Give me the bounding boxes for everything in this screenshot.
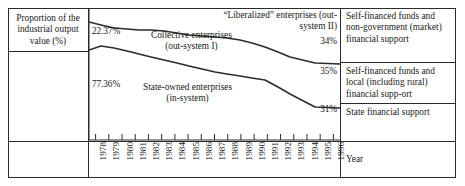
series-label-collective: Collective enterprises (out-system I) bbox=[151, 30, 232, 53]
x-axis-tick-label: 1995 bbox=[324, 142, 333, 160]
funding-box-state: State financial support bbox=[341, 104, 456, 141]
pct-label-soe-start: 77.36% bbox=[92, 79, 120, 89]
x-axis-tick-label: 1987 bbox=[218, 142, 227, 160]
x-axis-tick-label: 1978 bbox=[99, 142, 108, 160]
funding-box-market: Self-financed funds and non-government (… bbox=[341, 8, 456, 63]
figure-container: Proportion of the industrial output valu… bbox=[0, 0, 465, 186]
plot-area: 22.37% 77.36% 34% 35% 31% “Liberalized” … bbox=[89, 8, 340, 141]
x-axis-tick-label: 1988 bbox=[231, 142, 240, 160]
y-axis-label: Proportion of the industrial output valu… bbox=[8, 8, 88, 52]
pct-label-collective-start: 22.37% bbox=[92, 26, 120, 36]
series-label-soe-line2: (in-system) bbox=[143, 93, 232, 104]
x-axis-tick-label: 1989 bbox=[245, 142, 254, 160]
x-axis-tick-label: 1986 bbox=[205, 142, 214, 160]
x-axis-tick-label: 1980 bbox=[126, 142, 135, 160]
series-label-liberalized-line1: “Liberalized” enterprises (out- bbox=[223, 10, 337, 21]
pct-label-soe-end: 31% bbox=[320, 104, 337, 114]
funding-source-column: Self-financed funds and non-government (… bbox=[340, 8, 456, 178]
x-axis-tick-label: 1993 bbox=[297, 142, 306, 160]
x-axis-tick-label: 1981 bbox=[139, 142, 148, 160]
x-axis-title: Year bbox=[341, 142, 456, 178]
left-axis-label-column: Proportion of the industrial output valu… bbox=[8, 8, 89, 178]
series-label-collective-line1: Collective enterprises bbox=[151, 30, 232, 41]
x-axis-tick-label: 1992 bbox=[284, 142, 293, 160]
series-label-liberalized: “Liberalized” enterprises (out- system I… bbox=[223, 10, 337, 33]
pct-label-collective-end: 35% bbox=[320, 66, 337, 76]
series-label-liberalized-line2: system II) bbox=[223, 21, 337, 32]
series-label-soe: State-owned enterprises (in-system) bbox=[143, 82, 232, 105]
x-axis-tick-label: 1991 bbox=[271, 142, 280, 160]
x-axis-tick-label: 1990 bbox=[258, 142, 267, 160]
x-axis-tick-label: 1983 bbox=[165, 142, 174, 160]
funding-box-local: Self-financed funds and local (including… bbox=[341, 63, 456, 104]
x-axis-tick-label: 1985 bbox=[192, 142, 201, 160]
series-label-collective-line2: (out-system I) bbox=[151, 41, 232, 52]
x-axis-tick-label: 1994 bbox=[311, 142, 320, 160]
series-label-soe-line1: State-owned enterprises bbox=[143, 82, 232, 93]
pct-label-liberalized-end: 34% bbox=[320, 36, 337, 46]
x-axis-tick-label: 1984 bbox=[178, 142, 187, 160]
x-axis-tick-label: 1982 bbox=[152, 142, 161, 160]
x-axis-tick-labels: 1978197919801981198219831984198519861987… bbox=[89, 142, 340, 178]
x-axis-tick-label: 1979 bbox=[112, 142, 121, 160]
